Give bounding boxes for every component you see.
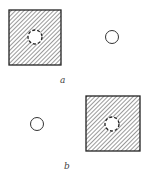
panel-b: b xyxy=(31,96,141,171)
panel-label-a: a xyxy=(60,75,65,85)
open-circle-b xyxy=(31,118,44,131)
panel-label-b: b xyxy=(64,161,70,171)
dashed-circle-a xyxy=(28,30,42,44)
dashed-circle-b xyxy=(105,117,119,131)
open-circle-a xyxy=(106,31,119,44)
panel-a: a xyxy=(9,10,119,85)
diagram-canvas: a b xyxy=(0,0,148,175)
